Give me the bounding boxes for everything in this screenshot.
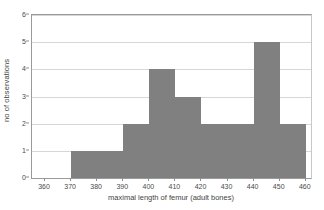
x-tick-label: 450: [273, 183, 285, 190]
histogram-bar: [228, 124, 254, 178]
x-tick-mark: [200, 178, 201, 181]
x-tick-label: 430: [221, 183, 233, 190]
x-tick-label: 460: [299, 183, 311, 190]
y-tick-mark: [26, 68, 29, 69]
histogram-bar: [254, 42, 280, 178]
y-axis-title: no of observations: [0, 0, 14, 180]
x-tick-label: 400: [142, 183, 154, 190]
x-tick-mark: [44, 178, 45, 181]
x-tick-label: 380: [90, 183, 102, 190]
x-tick-mark: [70, 178, 71, 181]
histogram-bar: [149, 69, 175, 178]
x-tick-mark: [279, 178, 280, 181]
x-tick-label: 360: [38, 183, 50, 190]
plot-area: [31, 14, 312, 179]
histogram-bar: [175, 97, 201, 179]
y-tick-mark: [26, 41, 29, 42]
plot-inner: [32, 15, 311, 178]
histogram-bar: [123, 124, 149, 178]
x-tick-label: 370: [64, 183, 76, 190]
histogram-bar: [71, 151, 97, 178]
x-tick-label: 420: [195, 183, 207, 190]
x-tick-mark: [174, 178, 175, 181]
x-tick-label: 410: [169, 183, 181, 190]
x-tick-mark: [148, 178, 149, 181]
histogram-bar: [280, 124, 306, 178]
y-tick-mark: [26, 95, 29, 96]
histogram-figure: no of observations 0123456 3603703803904…: [0, 0, 324, 210]
x-tick-mark: [96, 178, 97, 181]
x-tick-mark: [122, 178, 123, 181]
y-tick-mark: [26, 149, 29, 150]
x-tick-mark: [253, 178, 254, 181]
y-axis-tick-labels: 0123456: [14, 0, 29, 210]
x-tick-mark: [305, 178, 306, 181]
histogram-bar: [201, 124, 227, 178]
x-tick-label: 440: [247, 183, 259, 190]
y-tick-mark: [26, 177, 29, 178]
y-axis-title-text: no of observations: [3, 58, 12, 121]
y-tick-mark: [26, 122, 29, 123]
gridline: [32, 15, 311, 16]
x-tick-label: 390: [116, 183, 128, 190]
histogram-bar: [97, 151, 123, 178]
x-tick-mark: [227, 178, 228, 181]
x-axis-title: maximal length of femur (adult bones): [31, 193, 311, 202]
y-tick-mark: [26, 14, 29, 15]
